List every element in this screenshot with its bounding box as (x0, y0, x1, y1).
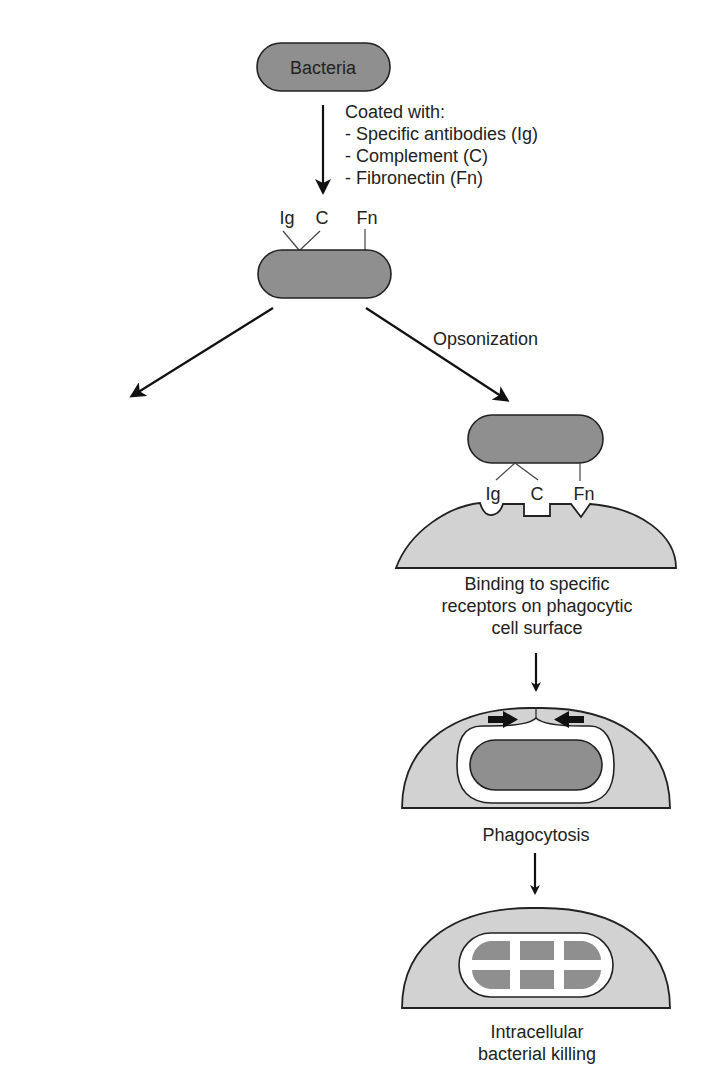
coating-title: Coated with: (345, 102, 445, 122)
arrow-lysis (132, 308, 273, 396)
bacteria-label: Bacteria (290, 58, 357, 78)
binding-label-ig: Ig (485, 484, 500, 504)
arrow-opsonization (366, 308, 507, 400)
phagocytosis-stage: Phagocytosis (402, 708, 670, 845)
killing-caption-line1: Intracellular (490, 1022, 583, 1042)
binding-stage: Ig C Fn Binding to specific receptors on… (396, 415, 676, 638)
engulfed-bacterium (470, 740, 602, 790)
opsonized-bacterium (468, 415, 603, 463)
label-fn: Fn (356, 208, 377, 228)
coated-bacterium: Ig C Fn (258, 208, 391, 298)
coating-item-fn: - Fibronectin (Fn) (345, 168, 483, 188)
killing-caption-line2: bacterial killing (478, 1044, 596, 1064)
label-ig: Ig (279, 208, 294, 228)
phagocytosis-caption: Phagocytosis (482, 825, 589, 845)
coating-list: Coated with: - Specific antibodies (Ig) … (345, 102, 538, 188)
bacteria-start-node: Bacteria (257, 43, 390, 91)
binding-caption-line3: cell surface (491, 618, 582, 638)
diagram-canvas: Bacteria Coated with: - Specific antibod… (0, 0, 717, 1088)
label-c: C (316, 208, 329, 228)
killing-stage: Intracellular bacterial killing (402, 908, 670, 1064)
opsonization-label: Opsonization (433, 329, 538, 349)
binding-caption-line1: Binding to specific (464, 574, 609, 594)
phagocyte-surface (396, 503, 676, 568)
binding-caption-line2: receptors on phagocytic (441, 596, 632, 616)
coating-item-c: - Complement (C) (345, 146, 488, 166)
coating-item-ig: - Specific antibodies (Ig) (345, 124, 538, 144)
binding-label-c: C (531, 484, 544, 504)
binding-label-fn: Fn (573, 484, 594, 504)
